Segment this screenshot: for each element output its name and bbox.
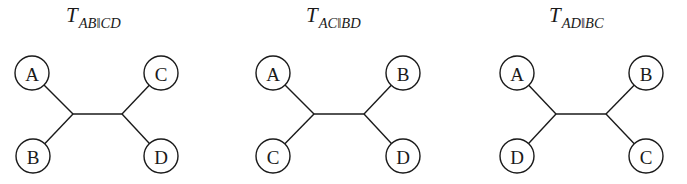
node-label: A <box>25 64 39 85</box>
leaf-edge-d <box>529 114 556 144</box>
leaf-edge-b <box>606 85 634 114</box>
node-c: C <box>629 139 663 173</box>
tree-ab-cd: TAB‖CDABCD <box>15 3 178 173</box>
node-c: C <box>256 139 290 173</box>
tree-title-main: T <box>66 3 79 27</box>
tree-title-subscript: AD‖BC <box>561 15 604 31</box>
node-a: A <box>500 56 534 90</box>
node-a: A <box>256 56 290 90</box>
node-d: D <box>500 139 534 173</box>
node-b: B <box>629 56 663 90</box>
leaf-edge-a <box>529 85 556 114</box>
leaf-edge-b <box>364 85 391 114</box>
node-b: B <box>386 56 420 90</box>
tree-ac-bd: TAC‖BDACBD <box>256 3 420 173</box>
leaf-edge-c <box>122 85 149 114</box>
tree-title: TAC‖BD <box>306 3 361 31</box>
tree-title-main: T <box>306 3 319 27</box>
tree-title-main: T <box>549 3 562 27</box>
tree-ad-bc: TAD‖BCADBC <box>500 3 663 173</box>
node-label: B <box>397 64 410 85</box>
tree-title-subscript: AC‖BD <box>318 15 361 31</box>
node-c: C <box>144 56 178 90</box>
node-b: B <box>16 139 50 173</box>
node-label: A <box>266 64 280 85</box>
node-label: A <box>510 64 524 85</box>
tree-title-subscript: AB‖CD <box>78 15 121 31</box>
node-a: A <box>15 56 49 90</box>
node-label: C <box>155 64 168 85</box>
leaf-edge-a <box>44 85 73 114</box>
leaf-edge-d <box>122 114 149 144</box>
node-label: C <box>267 147 280 168</box>
tree-title: TAD‖BC <box>549 3 604 31</box>
leaf-edge-c <box>285 114 314 144</box>
node-label: D <box>154 147 168 168</box>
node-label: B <box>27 147 40 168</box>
quartet-trees-figure: TAB‖CDABCDTAC‖BDACBDTAD‖BCADBC <box>0 0 687 184</box>
node-label: C <box>640 147 653 168</box>
node-label: D <box>396 147 410 168</box>
leaf-edge-b <box>45 114 73 144</box>
leaf-edge-a <box>285 85 314 114</box>
leaf-edge-c <box>606 114 634 144</box>
node-label: B <box>640 64 653 85</box>
node-d: D <box>144 139 178 173</box>
node-d: D <box>386 139 420 173</box>
tree-title: TAB‖CD <box>66 3 121 31</box>
leaf-edge-d <box>364 114 391 144</box>
node-label: D <box>510 147 524 168</box>
